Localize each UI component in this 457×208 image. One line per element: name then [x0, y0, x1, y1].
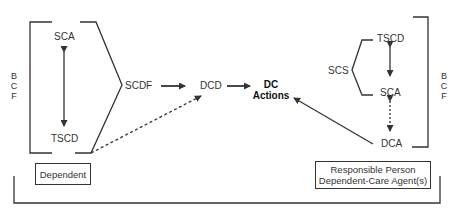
right-dca-label: DCA: [381, 138, 402, 149]
right-bracket: [412, 17, 428, 147]
right-bcf-label: B C F: [440, 71, 448, 101]
dependent-to-dcd-dotted-arrow: [91, 96, 201, 153]
right-tscd-label: TSCD: [377, 33, 404, 44]
scdf-label: SCDF: [125, 80, 152, 91]
scs-label: SCS: [328, 65, 349, 76]
scs-trapezoid: [352, 40, 373, 95]
responsible-person-box: Responsible Person Dependent-Care Agent(…: [315, 161, 431, 189]
dependent-box: Dependent: [35, 163, 91, 185]
right-sca-label: SCA: [380, 87, 401, 98]
left-bcf-label: B C F: [10, 71, 18, 101]
dcd-label: DCD: [200, 80, 222, 91]
dc-actions-label: DC Actions: [251, 79, 291, 101]
dca-to-dc-actions-arrow: [294, 98, 373, 144]
left-tscd-label: TSCD: [51, 133, 78, 144]
left-sca-label: SCA: [54, 31, 75, 42]
